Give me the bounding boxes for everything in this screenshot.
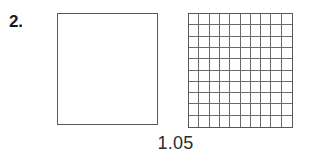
grid-cell	[210, 14, 220, 25]
grid-cell	[282, 59, 292, 70]
grid-cell	[210, 37, 220, 48]
grid-cell	[189, 25, 199, 36]
grid-cell	[210, 48, 220, 59]
grid-cell	[189, 104, 199, 115]
grid-cell	[199, 71, 209, 82]
grid-cell	[220, 48, 230, 59]
grid-cell	[241, 71, 251, 82]
grid-cell	[199, 25, 209, 36]
grid-cell	[271, 82, 281, 93]
grid-cell	[282, 37, 292, 48]
grid-cell	[230, 48, 240, 59]
grid-cell	[241, 82, 251, 93]
grid-cell	[220, 93, 230, 104]
grid-cell	[271, 59, 281, 70]
grid-cell	[271, 25, 281, 36]
grid-cell	[230, 14, 240, 25]
grid-cell	[261, 104, 271, 115]
grid-cell	[261, 48, 271, 59]
grid-cell	[220, 25, 230, 36]
grid-cell	[230, 104, 240, 115]
grid-cell	[199, 104, 209, 115]
grid-cell	[230, 71, 240, 82]
hundredths-grid-model	[188, 13, 293, 128]
grid-cell	[241, 104, 251, 115]
grid-cell	[271, 71, 281, 82]
grid-cell	[271, 116, 281, 127]
grid-cell	[199, 82, 209, 93]
grid-cell	[230, 25, 240, 36]
grid-cell	[261, 37, 271, 48]
worksheet-problem: 2. 1.05	[0, 0, 313, 165]
grid-cell	[210, 71, 220, 82]
grid-cell	[199, 48, 209, 59]
grid-cell	[251, 59, 261, 70]
grid-cell	[189, 37, 199, 48]
decimal-models-row	[0, 0, 313, 130]
grid-cell	[251, 71, 261, 82]
grid-cell	[241, 116, 251, 127]
grid-cell	[241, 93, 251, 104]
grid-cell	[189, 116, 199, 127]
grid-cell	[261, 25, 271, 36]
grid-cell	[261, 71, 271, 82]
grid-cell	[261, 59, 271, 70]
decimal-value-text: 1.05	[158, 132, 194, 154]
grid-cell	[251, 82, 261, 93]
grid-cell	[230, 82, 240, 93]
grid-cell	[282, 104, 292, 115]
grid-cell	[241, 37, 251, 48]
grid-cell	[261, 93, 271, 104]
grid-cell	[282, 93, 292, 104]
grid-cell	[189, 82, 199, 93]
grid-cell	[199, 93, 209, 104]
grid-cell	[271, 14, 281, 25]
grid-cell	[271, 104, 281, 115]
grid-cell	[189, 14, 199, 25]
grid-cell	[251, 93, 261, 104]
grid-cell	[251, 116, 261, 127]
grid-cell	[261, 82, 271, 93]
grid-cell	[271, 37, 281, 48]
grid-cell	[189, 93, 199, 104]
grid-cell	[241, 48, 251, 59]
grid-cell	[199, 37, 209, 48]
grid-cell	[189, 59, 199, 70]
grid-cell	[220, 116, 230, 127]
whole-unit-square-model	[57, 13, 158, 125]
grid-cell	[230, 116, 240, 127]
grid-cell	[220, 82, 230, 93]
grid-cell	[251, 48, 261, 59]
grid-cell	[241, 14, 251, 25]
grid-cell	[230, 59, 240, 70]
grid-cell	[199, 59, 209, 70]
grid-cell	[210, 59, 220, 70]
grid-cell	[271, 48, 281, 59]
grid-cell	[261, 116, 271, 127]
grid-cell	[241, 25, 251, 36]
grid-cell	[220, 104, 230, 115]
grid-cell	[230, 37, 240, 48]
grid-cell	[261, 14, 271, 25]
grid-cell	[282, 116, 292, 127]
grid-cell	[282, 71, 292, 82]
grid-cell	[220, 14, 230, 25]
grid-cell	[189, 71, 199, 82]
grid-cell	[282, 82, 292, 93]
grid-cell	[210, 93, 220, 104]
decimal-value-caption: 1.05	[0, 132, 313, 154]
grid-cell	[210, 25, 220, 36]
grid-cell	[251, 37, 261, 48]
grid-cell	[251, 25, 261, 36]
grid-cell	[199, 116, 209, 127]
grid-cell	[210, 104, 220, 115]
grid-cell	[251, 14, 261, 25]
grid-cell	[189, 48, 199, 59]
grid-cell	[220, 71, 230, 82]
grid-cell	[210, 116, 220, 127]
grid-cell	[282, 14, 292, 25]
grid-cell	[199, 14, 209, 25]
grid-cell	[282, 25, 292, 36]
grid-cell	[282, 48, 292, 59]
grid-cell	[220, 37, 230, 48]
